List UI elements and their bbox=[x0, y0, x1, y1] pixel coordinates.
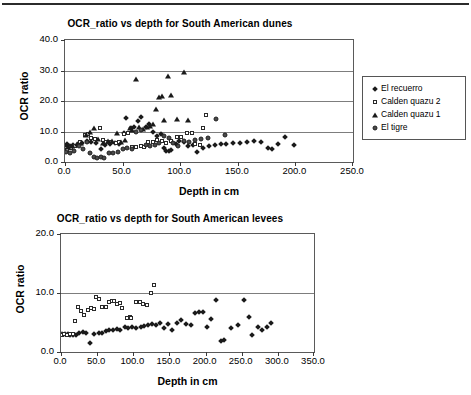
data-point bbox=[72, 149, 77, 154]
x-tick-label: 100.0 bbox=[159, 165, 199, 176]
data-point bbox=[282, 134, 288, 140]
legend-marker bbox=[368, 95, 381, 108]
diamond-marker-icon bbox=[372, 86, 378, 92]
data-point bbox=[230, 140, 236, 146]
data-point bbox=[168, 147, 174, 153]
data-point bbox=[73, 319, 77, 323]
y-axis-tick bbox=[61, 71, 65, 72]
chart-title-levees: OCR_ratio vs depth for South American le… bbox=[0, 213, 340, 224]
legend-dunes: El recuerroCalden quazu 2Calden quazu 1E… bbox=[362, 76, 466, 140]
data-point bbox=[76, 305, 80, 309]
legend-item: Calden quazu 1 bbox=[368, 108, 459, 121]
data-point bbox=[205, 135, 210, 140]
square-marker-icon bbox=[373, 100, 377, 104]
data-point bbox=[246, 314, 252, 320]
data-point bbox=[212, 142, 218, 148]
x-tick-label: 200.0 bbox=[185, 355, 225, 366]
data-point bbox=[129, 316, 133, 320]
x-tick-label: 200.0 bbox=[274, 165, 314, 176]
data-point bbox=[201, 126, 205, 130]
data-point bbox=[291, 142, 297, 148]
data-point bbox=[123, 116, 129, 122]
x-tick-label: 300.0 bbox=[257, 355, 297, 366]
data-point bbox=[138, 114, 144, 120]
data-point bbox=[122, 132, 126, 136]
plot-area-levees bbox=[60, 233, 315, 353]
y-tick-label: 20.0 bbox=[24, 94, 58, 105]
data-point bbox=[139, 128, 144, 133]
data-point bbox=[270, 146, 276, 152]
x-tick-label: 50.0 bbox=[76, 355, 116, 366]
page-top-rule bbox=[2, 3, 469, 5]
data-point bbox=[181, 138, 186, 143]
data-point bbox=[198, 137, 203, 142]
data-point bbox=[159, 93, 165, 98]
data-point bbox=[149, 291, 153, 295]
data-point bbox=[97, 297, 101, 301]
data-point bbox=[206, 143, 212, 149]
data-point bbox=[175, 135, 179, 139]
data-point bbox=[71, 332, 75, 336]
x-axis-label-dunes: Depth in cm bbox=[64, 185, 354, 197]
data-point bbox=[152, 283, 156, 287]
data-point bbox=[161, 117, 167, 122]
y-tick-label: 10.0 bbox=[24, 125, 58, 136]
data-point bbox=[102, 156, 107, 161]
data-point bbox=[204, 113, 208, 117]
legend-marker bbox=[368, 108, 381, 121]
legend-marker bbox=[368, 82, 381, 95]
circle-marker-icon bbox=[372, 125, 377, 130]
legend-label: El tigre bbox=[381, 121, 407, 134]
data-point bbox=[188, 323, 194, 329]
data-point bbox=[150, 121, 156, 126]
data-point bbox=[81, 146, 86, 151]
y-axis-tick bbox=[57, 234, 61, 235]
data-point bbox=[193, 138, 198, 143]
data-point bbox=[174, 116, 180, 121]
data-point bbox=[109, 138, 115, 143]
data-point bbox=[185, 117, 191, 122]
data-point bbox=[187, 139, 192, 144]
data-point bbox=[185, 131, 189, 135]
triangle-marker-icon bbox=[372, 112, 378, 117]
data-point bbox=[204, 324, 210, 330]
x-tick-label: 0.0 bbox=[44, 165, 84, 176]
chart-title-dunes: OCR_ratio vs depth for South American du… bbox=[0, 18, 360, 29]
data-point bbox=[114, 130, 120, 135]
data-point bbox=[198, 143, 202, 147]
y-tick-label: 20.0 bbox=[20, 227, 54, 238]
data-point bbox=[175, 143, 180, 148]
legend-label: El recuerro bbox=[381, 82, 423, 95]
data-point bbox=[120, 306, 124, 310]
legend-item: Calden quazu 2 bbox=[368, 95, 459, 108]
data-point bbox=[164, 141, 168, 145]
data-point bbox=[181, 69, 187, 74]
data-point bbox=[249, 333, 255, 339]
data-point bbox=[258, 139, 264, 145]
legend-label: Calden quazu 1 bbox=[381, 108, 441, 121]
chart-dunes: OCR_ratio vs depth for South American du… bbox=[0, 10, 471, 200]
data-point bbox=[275, 141, 281, 147]
data-points-dunes bbox=[65, 40, 353, 162]
chart-levees: OCR_ratio vs depth for South American le… bbox=[0, 205, 471, 395]
data-point bbox=[134, 145, 138, 149]
data-point bbox=[209, 316, 215, 322]
data-point bbox=[213, 116, 218, 121]
data-point bbox=[268, 320, 274, 326]
data-point bbox=[166, 135, 171, 140]
x-tick-label: 250.0 bbox=[332, 165, 372, 176]
x-tick-label: 150.0 bbox=[217, 165, 257, 176]
data-point bbox=[235, 322, 241, 328]
data-point bbox=[228, 325, 234, 331]
data-point bbox=[223, 132, 228, 137]
x-tick-label: 350.0 bbox=[293, 355, 333, 366]
y-tick-label: 10.0 bbox=[20, 286, 54, 297]
y-axis-tick bbox=[57, 293, 61, 294]
legend-item: El tigre bbox=[368, 121, 459, 134]
x-tick-label: 150.0 bbox=[148, 355, 188, 366]
data-point bbox=[200, 310, 206, 316]
data-points-levees bbox=[61, 234, 314, 352]
data-point bbox=[87, 340, 93, 346]
data-point bbox=[104, 305, 108, 309]
data-point bbox=[98, 126, 102, 130]
